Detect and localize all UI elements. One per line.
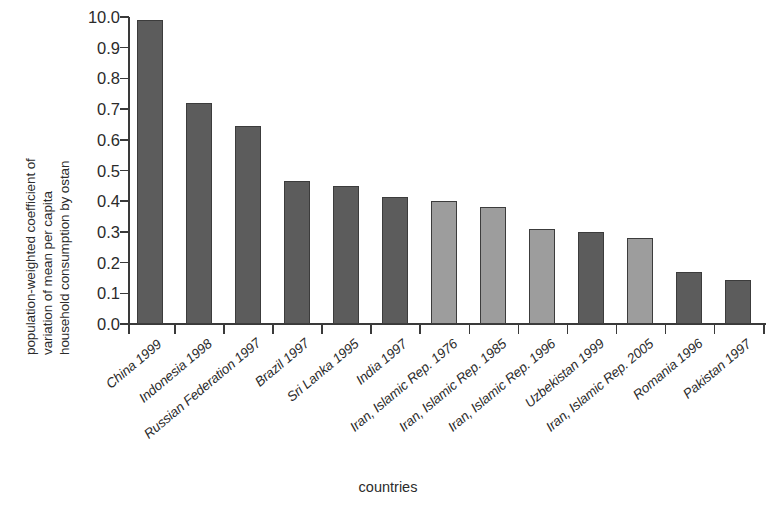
y-axis-tick-mark <box>120 262 129 264</box>
x-axis-tick-mark <box>223 325 225 334</box>
x-axis-tick-mark <box>714 325 716 334</box>
bar <box>137 20 163 324</box>
y-axis-tick-mark <box>120 16 129 18</box>
y-axis-tick-mark <box>120 108 129 110</box>
bar <box>235 126 261 324</box>
bar <box>186 103 212 324</box>
x-axis-tick-mark <box>174 325 176 334</box>
bar <box>431 201 457 324</box>
y-axis-tick-mark <box>120 293 129 295</box>
x-axis-tick-mark <box>370 325 372 334</box>
y-axis-tick-mark <box>120 139 129 141</box>
bar <box>284 181 310 324</box>
bar <box>529 229 555 324</box>
x-axis-tick-mark <box>567 325 569 334</box>
bar <box>333 186 359 324</box>
bar-chart-figure: population-weighted coefficient of varia… <box>0 0 776 507</box>
y-axis-tick-mark <box>120 170 129 172</box>
bar <box>627 238 653 324</box>
x-axis-tick-mark <box>419 325 421 334</box>
x-axis-title: countries <box>0 479 776 495</box>
y-axis-tick-mark <box>120 47 129 49</box>
bar <box>382 197 408 324</box>
bar <box>480 207 506 324</box>
y-axis-tick-mark <box>120 78 129 80</box>
x-axis-tick-mark <box>763 325 765 334</box>
x-axis-tick-mark <box>469 325 471 334</box>
y-axis-tick-mark <box>120 200 129 202</box>
x-axis-tick-mark <box>518 325 520 334</box>
bar <box>578 232 604 324</box>
x-axis-tick-mark <box>616 325 618 334</box>
bars-layer <box>0 0 776 507</box>
x-axis-tick-mark <box>665 325 667 334</box>
x-axis-tick-mark <box>128 325 130 334</box>
x-axis-tick-mark <box>272 325 274 334</box>
bar <box>676 272 702 324</box>
y-axis-tick-mark <box>120 231 129 233</box>
x-axis-tick-mark <box>321 325 323 334</box>
bar <box>725 280 751 325</box>
